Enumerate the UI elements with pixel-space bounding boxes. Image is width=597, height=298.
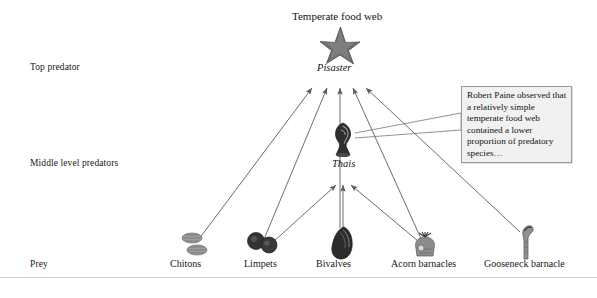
bivalve-icon	[329, 226, 355, 260]
starfish-icon	[318, 25, 362, 65]
snail-shell-icon	[329, 122, 357, 158]
arrow-acorn-barnacles-to-thais	[351, 185, 418, 241]
arrow-limpets-to-thais	[272, 185, 336, 243]
node-label-pisaster: Pisaster	[317, 62, 351, 74]
page-title: Temperate food web	[292, 10, 382, 22]
prey-label-limpets: Limpets	[244, 258, 277, 269]
prey-label-gooseneck-barnacle: Gooseneck barnacle	[484, 258, 565, 269]
tier-label-prey: Prey	[30, 259, 48, 270]
prey-label-acorn-barnacles: Acorn barnacles	[391, 258, 456, 269]
prey-label-chitons: Chitons	[170, 258, 201, 269]
prey-label-bivalves: Bivalves	[316, 258, 351, 269]
annotation-callout: Robert Paine observed that a relatively …	[461, 86, 572, 163]
node-label-thais: Thais	[332, 158, 355, 170]
acorn-barnacle-icon	[412, 232, 438, 258]
tier-label-top-predator: Top predator	[30, 62, 80, 73]
arrow-acorn-barnacles-to-pisaster	[353, 88, 423, 243]
tier-label-middle-level-predators: Middle level predators	[30, 158, 118, 169]
callout-leader-lower	[355, 130, 461, 138]
limpet-icon	[245, 232, 279, 256]
chiton-icon	[180, 232, 212, 258]
callout-leader-upper	[355, 113, 461, 133]
gooseneck-barnacle-icon	[516, 224, 536, 260]
food-web-diagram: Temperate food web Top predator Middle l…	[0, 0, 597, 298]
